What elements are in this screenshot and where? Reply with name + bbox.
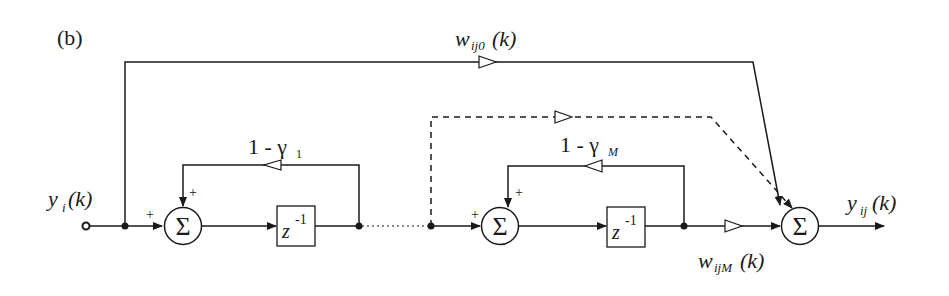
delay-label-1: z	[281, 220, 290, 242]
sum-symbol-1: Σ	[175, 212, 190, 241]
svg-text:1: 1	[296, 147, 302, 161]
svg-text:w: w	[698, 248, 713, 273]
svg-text:1 - γ: 1 - γ	[560, 132, 599, 157]
sum-symbol-output: Σ	[792, 212, 807, 241]
svg-text:M: M	[607, 145, 619, 159]
delay-exp-M: -1	[625, 213, 637, 228]
output-label: y ij (k)	[845, 190, 896, 218]
feedback-M-label: 1 - γ M	[560, 132, 619, 159]
svg-text:y: y	[845, 190, 857, 215]
svg-text:ijM: ijM	[714, 260, 733, 275]
svg-text:ij: ij	[860, 203, 868, 218]
plus-sign-Mb: +	[515, 185, 523, 200]
svg-text:w: w	[455, 26, 470, 51]
svg-text:(k): (k)	[740, 248, 764, 273]
feedback-path-M	[508, 166, 684, 226]
bottom-weight-label: w ijM (k)	[698, 248, 764, 275]
bypass-path-w0	[125, 62, 780, 226]
feedback-path-1	[183, 165, 359, 226]
delay-label-M: z	[611, 221, 620, 243]
input-label: y i (k)	[46, 186, 92, 215]
plus-sign-Ma: +	[471, 207, 479, 222]
svg-text:y: y	[46, 186, 58, 211]
svg-text:ij0: ij0	[471, 38, 485, 53]
top-weight-label: w ij0 (k)	[455, 26, 516, 53]
svg-text:(k): (k)	[872, 190, 896, 215]
gain-triangle-w0	[479, 56, 496, 68]
delay-exp-1: -1	[295, 212, 307, 227]
sum-symbol-M: Σ	[492, 212, 507, 241]
svg-text:(k): (k)	[68, 186, 92, 211]
gain-triangle-fb1	[264, 160, 281, 170]
block-diagram: (b) y i (k) w ij0 (k) + + Σ z -1 1 - γ 1…	[0, 0, 949, 296]
svg-text:i: i	[62, 200, 66, 215]
plus-sign-1a: +	[146, 207, 154, 222]
feedback-1-label: 1 - γ 1	[248, 134, 302, 161]
svg-text:(k): (k)	[492, 26, 516, 51]
svg-text:1 - γ: 1 - γ	[248, 134, 287, 159]
panel-label: (b)	[57, 25, 83, 50]
gain-triangle-dashed	[555, 111, 572, 123]
plus-sign-1b: +	[189, 185, 197, 200]
gain-triangle-wM	[725, 220, 742, 232]
gain-triangle-fbM	[585, 160, 602, 172]
input-terminal	[83, 223, 90, 230]
